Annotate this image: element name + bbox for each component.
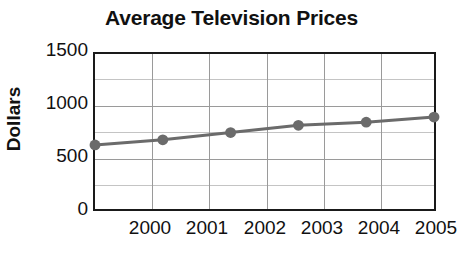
data-point-2003: [293, 120, 304, 131]
data-point-2000: [90, 140, 101, 151]
series-plot: [95, 54, 434, 209]
chart-title: Average Television Prices: [0, 6, 463, 30]
data-point-2002: [225, 127, 236, 138]
y-tick-label-0: 0: [18, 199, 88, 218]
series-line: [95, 117, 434, 145]
data-point-2004: [361, 117, 372, 128]
y-axis-tick-labels: 1500 1000 500 0: [18, 40, 88, 223]
plot-area: [93, 52, 436, 211]
series-markers: [90, 112, 440, 151]
data-point-2005: [429, 112, 440, 123]
x-tick-label-2005: 2005: [401, 216, 463, 240]
x-axis-tick-labels: 2000 2001 2002 2003 2004 2005: [93, 216, 436, 250]
data-point-2001: [157, 134, 168, 145]
y-tick-label-500: 500: [18, 146, 88, 165]
y-tick-label-1500: 1500: [18, 40, 88, 59]
y-tick-label-1000: 1000: [18, 93, 88, 112]
chart-figure: Average Television Prices Dollars 1500 1…: [0, 0, 463, 254]
